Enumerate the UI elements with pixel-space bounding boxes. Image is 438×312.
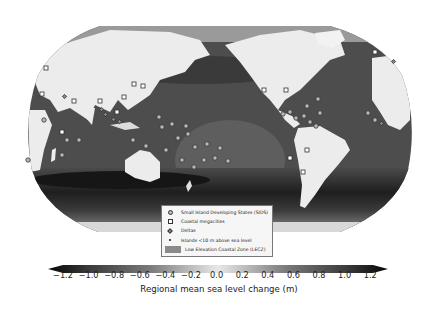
legend-label: Deltas [181,228,196,233]
legend-item-deltas: Deltas [165,226,269,235]
dot-marker-icon [165,236,175,244]
colorbar-title: Regional mean sea level change (m) [0,284,438,294]
tick-label: −0.6 [130,270,150,280]
tick-label: 0.4 [261,270,274,280]
legend-item-megacities: Coastal megacities [165,217,269,226]
circle-marker-icon [165,209,175,217]
legend-item-lecz: Low Elevation Coastal Zone (LECZ) [165,245,269,254]
colorbar-ticks: −1.2 −1.0 −0.8 −0.6 −0.4 −0.2 0.0 0.2 0.… [0,270,438,280]
tick-label: 1.2 [364,270,377,280]
legend-label: Low Elevation Coastal Zone (LECZ) [185,247,265,252]
legend-item-low-islands: Islands <10 m above sea level [165,236,269,245]
tick-label: 1.0 [338,270,351,280]
square-marker-icon [165,218,175,226]
legend-label: Islands <10 m above sea level [181,238,252,243]
tick-label: 0.0 [210,270,223,280]
tick-label: 0.6 [287,270,300,280]
patch-swatch-icon [165,245,181,253]
tick-label: 0.8 [312,270,325,280]
legend-label: Coastal megacities [181,219,225,224]
tick-label: −1.2 [53,270,73,280]
map-legend: Small Island Developing States (SIDS) Co… [161,205,273,257]
tick-label: −1.0 [79,270,99,280]
legend-label: Small Island Developing States (SIDS) [181,210,268,215]
colorbar [48,259,388,269]
tick-label: −0.4 [155,270,175,280]
diamond-marker-icon [165,227,175,235]
tick-label: −0.8 [104,270,124,280]
tick-label: −0.2 [181,270,201,280]
tick-label: 0.2 [236,270,249,280]
legend-item-sids: Small Island Developing States (SIDS) [165,208,269,217]
